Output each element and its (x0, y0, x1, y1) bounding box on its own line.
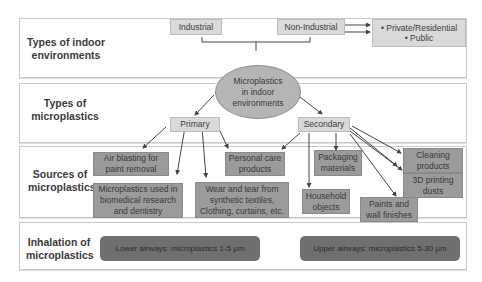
primary-box: Primary (170, 117, 220, 132)
source-personal-care: Personal careproducts (225, 152, 285, 176)
subtype-public: • Public (405, 33, 434, 44)
non-industrial-box: Non-Industrial (277, 19, 345, 35)
source-3d-printing: 3D printingdusts (403, 173, 463, 198)
source-wear-and-tear: Wear and tear fromsynthetic textiles,Clo… (195, 182, 289, 218)
source-air-blasting: Air blasting forpaint removal (93, 152, 169, 176)
subtype-private: • Private/Residential (381, 23, 457, 34)
environment-subtypes-box: • Private/Residential • Public (372, 19, 466, 47)
industrial-box: Industrial (170, 19, 222, 35)
upper-airways-box: Upper airways: microplastics 5-30 µm (300, 236, 460, 261)
source-packaging: Packagingmaterials (314, 150, 362, 176)
source-cleaning: Cleaningproducts (403, 148, 463, 173)
lower-airways-box: Lower airways: microplastics 1-5 µm (100, 236, 260, 261)
source-household: Householdobjects (302, 189, 350, 214)
source-paints: Paints andwall finishes (360, 197, 418, 222)
secondary-box: Secondary (298, 117, 350, 132)
center-node-microplastics: Microplastics in indoor environments (215, 65, 301, 119)
source-biomedical: Microplastics used inbiomedical research… (93, 183, 183, 218)
